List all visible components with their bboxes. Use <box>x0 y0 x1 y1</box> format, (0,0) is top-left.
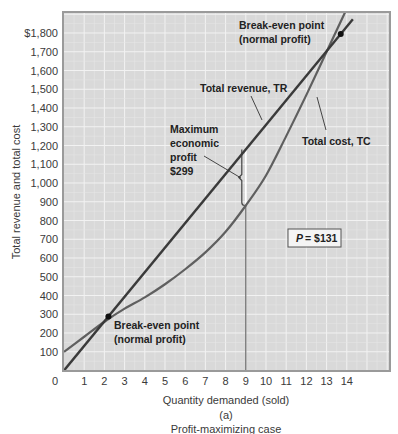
price-value: = $131 <box>305 232 338 244</box>
price-box-label: P= $131 <box>296 232 338 244</box>
total-cost-label: Total cost, TC <box>302 135 371 147</box>
x-tick-label: 5 <box>162 375 168 387</box>
x-tick-label: 11 <box>280 375 291 387</box>
break-even-low-label-line1: Break-even point <box>114 319 200 331</box>
y-tick-label: 900 <box>40 196 58 208</box>
y-tick-label: 600 <box>40 252 58 264</box>
x-tick-label: 7 <box>202 375 208 387</box>
x-tick-label: 0 <box>52 375 58 387</box>
break-even-high-label-line1: Break-even point <box>239 19 325 31</box>
chart-subtitle: (a) <box>219 409 232 421</box>
y-tick-label: 1,700 <box>30 46 58 58</box>
x-tick-label: 10 <box>260 375 272 387</box>
x-tick-label: 2 <box>101 375 107 387</box>
x-axis-title: Quantity demanded (sold) <box>163 394 290 406</box>
max-profit-label-line2: economic <box>170 137 219 149</box>
x-tick-label: 8 <box>223 375 229 387</box>
x-tick-label: 6 <box>182 375 188 387</box>
x-tick-label: 14 <box>341 375 353 387</box>
break-even-high-label-line2: (normal profit) <box>239 33 311 45</box>
break-even-point-low <box>105 314 111 320</box>
y-tick-label: 1,100 <box>30 158 58 170</box>
x-tick-label: 4 <box>142 375 148 387</box>
x-tick-label: 13 <box>320 375 332 387</box>
y-tick-label: 100 <box>40 346 58 358</box>
y-tick-label: 1,500 <box>30 83 58 95</box>
y-tick-label: 400 <box>40 290 58 302</box>
x-tick-label: 1 <box>81 375 87 387</box>
y-tick-label: 1,400 <box>30 102 58 114</box>
profit-maximizing-chart: 1002003004005006007008009001,0001,1001,2… <box>0 0 398 434</box>
y-tick-label: 1,300 <box>30 121 58 133</box>
max-profit-label-line3: profit <box>170 151 197 163</box>
y-tick-label: 1,000 <box>30 177 58 189</box>
break-even-point-high <box>338 31 344 37</box>
max-profit-label-line4: $299 <box>170 165 194 177</box>
y-tick-label: 200 <box>40 327 58 339</box>
chart-caption: Profit-maximizing case <box>171 423 282 434</box>
break-even-low-label-line2: (normal profit) <box>114 333 186 345</box>
total-revenue-label: Total revenue, TR <box>200 82 288 94</box>
y-tick-label: 1,600 <box>30 65 58 77</box>
y-tick-label: 800 <box>40 215 58 227</box>
y-tick-label: 700 <box>40 233 58 245</box>
y-tick-label: $1,800 <box>24 27 58 39</box>
y-tick-label: 300 <box>40 308 58 320</box>
price-symbol: P <box>296 232 304 244</box>
x-tick-label: 12 <box>300 375 312 387</box>
x-tick-label: 3 <box>122 375 128 387</box>
x-tick-label: 9 <box>243 375 249 387</box>
y-axis-title: Total revenue and total cost <box>10 125 22 260</box>
y-tick-label: 1,200 <box>30 140 58 152</box>
y-tick-label: 500 <box>40 271 58 283</box>
max-profit-label-line1: Maximum <box>170 123 218 135</box>
